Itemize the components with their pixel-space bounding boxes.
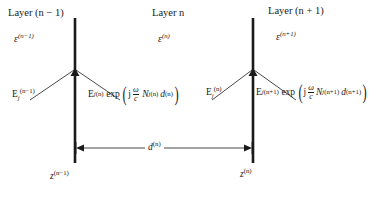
position-sup-left: (n−1)	[54, 169, 69, 176]
multilayer-interface-figure: Layer (n − 1) Layer n Layer (n + 1) ε(n−…	[0, 0, 389, 197]
omega-numerator-right: ω	[307, 84, 315, 92]
permittivity-sup-right: (n+1)	[280, 30, 296, 37]
exp-operator-right: exp	[281, 88, 295, 98]
permittivity-label-left: ε(n−1)	[14, 33, 34, 44]
omega-over-c-fraction-right: ω c	[307, 84, 315, 101]
position-label-left: z(n−1)	[50, 170, 69, 182]
left-paren-open-right: (	[298, 85, 302, 100]
field-label-right-incoming: Ej(n)	[206, 86, 222, 100]
position-label-right: z(n)	[240, 168, 252, 180]
field-label-left-incoming: Ej(n−1)	[12, 88, 35, 102]
permittivity-label-middle: ε(n)	[158, 33, 170, 44]
c-denominator-left: c	[133, 94, 139, 103]
c-denominator-right: c	[308, 92, 314, 101]
permittivity-sup-middle: (n)	[162, 32, 170, 39]
dimension-label-bg: d(n)	[145, 142, 164, 152]
omega-numerator-left: ω	[132, 86, 140, 94]
right-paren-close-left: )	[174, 87, 178, 102]
left-paren-open-left: (	[123, 87, 127, 102]
layer-title-middle: Layer n	[152, 8, 184, 19]
field-label-right-outgoing: Ej(n+1) exp ( j ω c Nj(n+1) d(n+1) )	[256, 84, 368, 101]
field-sup-right-incoming: (n)	[214, 85, 222, 92]
layer-title-left-text: Layer (n − 1)	[8, 7, 64, 18]
exp-operator-left: exp	[106, 90, 120, 100]
field-sub-right-incoming: j	[212, 92, 214, 99]
dimension-sup: (n)	[153, 140, 161, 147]
thickness-sup-right: (n+1)	[346, 89, 361, 96]
field-sup-left-outgoing: (n)	[96, 91, 104, 98]
field-sup-right-outgoing: (n+1)	[264, 89, 279, 96]
omega-over-c-fraction-left: ω c	[132, 86, 140, 103]
dimension-arrowhead-right	[244, 145, 252, 152]
position-sup-right: (n)	[244, 167, 252, 174]
layer-title-right-text: Layer (n + 1)	[268, 5, 324, 16]
layer-title-left: Layer (n − 1)	[8, 8, 64, 19]
dimension-label: d(n)	[145, 141, 164, 153]
dimension-arrowhead-left	[76, 145, 84, 152]
field-sub-left-incoming: j	[18, 94, 20, 101]
ray-left-incoming	[30, 70, 74, 100]
permittivity-label-right: ε(n+1)	[276, 31, 296, 42]
ray-left-incoming-arrowhead	[71, 68, 80, 76]
refractive-index-sup-left: (n)	[150, 91, 158, 98]
thickness-sup-left: (n)	[165, 91, 173, 98]
imaginary-unit-left: j	[128, 90, 131, 100]
permittivity-sup-left: (n−1)	[18, 32, 34, 39]
refractive-index-sup-right: (n+1)	[324, 89, 339, 96]
layer-title-right: Layer (n + 1)	[268, 6, 324, 17]
field-label-left-outgoing: Ej(n) exp ( j ω c Nj(n) d(n) )	[88, 86, 180, 103]
right-paren-close-right: )	[363, 85, 367, 100]
imaginary-unit-right: j	[304, 88, 307, 98]
field-sup-left-incoming: (n−1)	[20, 87, 35, 94]
layer-title-middle-text: Layer n	[152, 7, 184, 18]
